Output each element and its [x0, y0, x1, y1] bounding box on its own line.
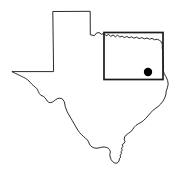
- texas-outline-map-figure: Texas: [0, 0, 179, 174]
- site-location-marker: [144, 68, 152, 76]
- map-canvas: [0, 0, 179, 174]
- texas-state-outline: [12, 11, 168, 163]
